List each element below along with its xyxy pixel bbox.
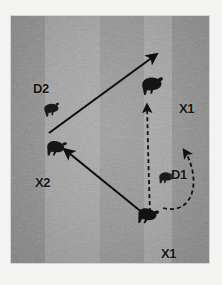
label-x1-top: X1	[179, 102, 194, 115]
marker-x1-top	[139, 74, 164, 95]
label-x2: X2	[35, 176, 50, 189]
label-d2: D2	[33, 82, 49, 95]
arrow-overlay	[11, 16, 209, 263]
marker-d2	[41, 100, 61, 117]
marker-x2	[44, 137, 67, 157]
label-x1-bottom: X1	[161, 247, 176, 260]
arrow-dashed-vertical	[147, 105, 150, 212]
marker-x1-bottom	[135, 204, 159, 225]
label-d1: D1	[171, 168, 187, 181]
diagram-page: D2 X2 X1 D1 X1	[0, 0, 222, 285]
arena-field: D2 X2 X1 D1 X1	[11, 16, 209, 263]
